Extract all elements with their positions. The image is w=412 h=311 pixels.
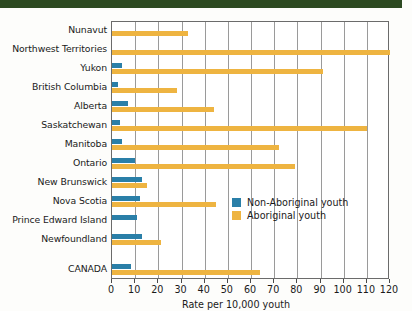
category-label: Yukon <box>80 63 107 73</box>
legend-swatch-aboriginal <box>232 211 241 220</box>
category-label: British Columbia <box>32 82 107 92</box>
gridline <box>251 22 252 278</box>
gridline <box>344 22 345 278</box>
x-tick <box>273 279 274 283</box>
x-tick <box>181 279 182 283</box>
bar-non-aboriginal <box>112 139 122 144</box>
gridline <box>274 22 275 278</box>
bar-aboriginal <box>112 164 295 169</box>
bar-aboriginal <box>112 183 147 188</box>
x-tick-label: 90 <box>313 284 325 295</box>
gridline <box>205 22 206 278</box>
x-tick <box>227 279 228 283</box>
x-tick-label: 10 <box>128 284 140 295</box>
bar-non-aboriginal <box>112 196 140 201</box>
bar-aboriginal <box>112 50 390 55</box>
x-tick-label: 0 <box>108 284 114 295</box>
x-tick <box>366 279 367 283</box>
x-tick-label: 60 <box>244 284 256 295</box>
x-axis-tick-labels: 0102030405060708090100110120 <box>0 284 412 298</box>
bar-non-aboriginal <box>112 234 142 239</box>
x-tick <box>250 279 251 283</box>
category-label: Alberta <box>74 101 107 111</box>
category-label: Newfoundland <box>41 234 107 244</box>
gridline <box>228 22 229 278</box>
x-tick-label: 70 <box>267 284 279 295</box>
x-tick-label: 110 <box>357 284 375 295</box>
category-label: Nunavut <box>68 25 107 35</box>
category-label: Nova Scotia <box>53 196 107 206</box>
bar-non-aboriginal <box>112 120 120 125</box>
bar-non-aboriginal <box>112 158 135 163</box>
legend-item-non-aboriginal: Non-Aboriginal youth <box>232 196 348 209</box>
x-tick-label: 30 <box>174 284 186 295</box>
x-tick-label: 80 <box>290 284 302 295</box>
category-axis-labels: NunavutNorthwest TerritoriesYukonBritish… <box>0 21 107 279</box>
bar-aboriginal <box>112 202 216 207</box>
bar-non-aboriginal <box>112 101 128 106</box>
bar-non-aboriginal <box>112 82 118 87</box>
plot-area <box>111 21 389 279</box>
gridline <box>297 22 298 278</box>
bar-aboriginal <box>112 69 323 74</box>
x-tick <box>134 279 135 283</box>
gridline <box>321 22 322 278</box>
x-tick-label: 120 <box>380 284 398 295</box>
category-label: Prince Edward Island <box>12 215 107 225</box>
x-tick-label: 50 <box>221 284 233 295</box>
legend-label-non-aboriginal: Non-Aboriginal youth <box>247 196 348 209</box>
x-tick <box>111 279 112 283</box>
bar-non-aboriginal <box>112 264 131 269</box>
category-label: CANADA <box>68 264 107 274</box>
bar-chart: NunavutNorthwest TerritoriesYukonBritish… <box>0 8 412 311</box>
x-tick <box>343 279 344 283</box>
x-tick <box>296 279 297 283</box>
gridline <box>182 22 183 278</box>
page-header-band <box>0 0 412 8</box>
x-tick <box>389 279 390 283</box>
bar-aboriginal <box>112 270 260 275</box>
x-tick-label: 40 <box>198 284 210 295</box>
bar-aboriginal <box>112 88 177 93</box>
bar-aboriginal <box>112 31 188 36</box>
legend-label-aboriginal: Aboriginal youth <box>247 209 326 222</box>
bar-non-aboriginal <box>112 215 137 220</box>
bar-aboriginal <box>112 107 214 112</box>
bar-aboriginal <box>112 126 367 131</box>
legend-item-aboriginal: Aboriginal youth <box>232 209 348 222</box>
x-tick-label: 20 <box>151 284 163 295</box>
bar-aboriginal <box>112 145 279 150</box>
bar-non-aboriginal <box>112 63 122 68</box>
x-axis-title-text: Rate per 10,000 youth <box>182 299 290 310</box>
bar-non-aboriginal <box>112 177 142 182</box>
gridline <box>367 22 368 278</box>
category-label: New Brunswick <box>38 177 107 187</box>
x-axis-title: Rate per 10,000 youth <box>0 299 412 310</box>
category-label: Manitoba <box>65 139 107 149</box>
x-tick <box>320 279 321 283</box>
category-label: Saskatchewan <box>41 120 107 130</box>
bar-aboriginal <box>112 240 161 245</box>
chart-legend: Non-Aboriginal youth Aboriginal youth <box>232 196 348 222</box>
x-tick-label: 100 <box>334 284 352 295</box>
category-label: Northwest Territories <box>12 44 107 54</box>
x-tick <box>157 279 158 283</box>
legend-swatch-non-aboriginal <box>232 198 241 207</box>
x-tick <box>204 279 205 283</box>
category-label: Ontario <box>73 158 107 168</box>
